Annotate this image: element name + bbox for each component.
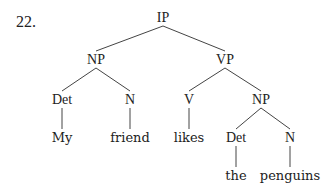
leaf-likes: likes [174,131,205,145]
node-v: V [184,93,194,107]
node-det-object: Det [226,131,246,145]
tree-edge [96,26,163,51]
syntax-tree-edges [0,0,332,194]
tree-edge [236,108,261,129]
tree-edge [62,68,96,91]
tree-edge [96,68,130,91]
node-det-subject: Det [52,93,72,107]
leaf-penguins: penguins [260,169,320,183]
leaf-friend: friend [110,131,150,145]
leaf-the: the [225,169,246,183]
tree-edge [189,68,225,91]
node-ip: IP [157,11,169,25]
tree-edge [163,26,225,51]
leaf-my: My [52,131,73,145]
node-n-subject: N [125,93,135,107]
node-np-object: NP [252,93,270,107]
node-vp: VP [216,53,234,67]
tree-edge [261,108,290,129]
node-n-object: N [285,131,295,145]
tree-edge [225,68,261,91]
node-np-subject: NP [87,53,105,67]
